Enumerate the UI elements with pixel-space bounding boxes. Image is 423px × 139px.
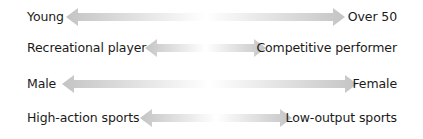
spectrum-row-sex: Male Female xyxy=(0,72,423,96)
right-pole-label: Over 50 xyxy=(348,5,397,29)
left-pole-label: Male xyxy=(27,72,56,96)
double-arrow-icon xyxy=(62,75,357,93)
right-pole-label: Female xyxy=(352,72,397,96)
spectrum-row-level: Recreational player Competitive performe… xyxy=(0,36,423,60)
double-arrow-icon xyxy=(66,8,345,26)
spectrum-row-age: Young Over 50 xyxy=(0,5,423,29)
spectrum-row-sport-type: High-action sports Low-output sports xyxy=(0,106,423,130)
left-pole-label: High-action sports xyxy=(27,106,140,130)
left-pole-label: Young xyxy=(27,5,64,29)
right-pole-label: Competitive performer xyxy=(256,36,397,60)
left-pole-label: Recreational player xyxy=(27,36,146,60)
double-arrow-icon xyxy=(140,109,292,127)
double-arrow-icon xyxy=(145,39,266,57)
right-pole-label: Low-output sports xyxy=(285,106,397,130)
